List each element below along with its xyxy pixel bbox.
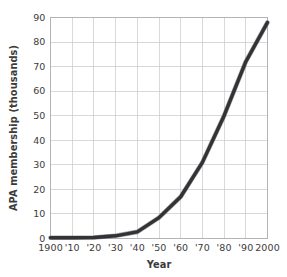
- y-tick-label: 30: [33, 159, 45, 170]
- line-chart: 0102030405060708090 1900'10'20'30'40'50'…: [0, 0, 287, 277]
- x-tick-label: '90: [238, 242, 253, 253]
- y-tick-label: 50: [33, 110, 45, 121]
- x-tick-label: 1900: [38, 242, 63, 253]
- chart-container: 0102030405060708090 1900'10'20'30'40'50'…: [0, 0, 287, 277]
- y-tick-label: 40: [33, 135, 45, 146]
- x-tick-label: '20: [86, 242, 101, 253]
- x-axis-title: Year: [146, 259, 172, 270]
- y-tick-label: 10: [33, 208, 45, 219]
- y-tick-label: 60: [33, 85, 45, 96]
- y-axis-title: APA membership (thousands): [8, 45, 19, 211]
- y-tick-label: 80: [33, 36, 45, 47]
- x-tick-label: '30: [108, 242, 123, 253]
- x-tick-label: '50: [152, 242, 167, 253]
- x-tick-label: '70: [195, 242, 210, 253]
- y-tick-label: 90: [33, 12, 45, 23]
- x-tick-label: '10: [65, 242, 80, 253]
- y-tick-label: 20: [33, 184, 45, 195]
- x-tick-label: 2000: [255, 242, 280, 253]
- x-axis-tick-labels: 1900'10'20'30'40'50'60'70'80'902000: [38, 242, 280, 253]
- y-tick-label: 70: [33, 61, 45, 72]
- x-tick-label: '80: [217, 242, 232, 253]
- y-axis-tick-labels: 0102030405060708090: [33, 12, 45, 244]
- x-tick-label: '40: [130, 242, 145, 253]
- x-gridlines: [51, 18, 268, 239]
- x-tick-label: '60: [173, 242, 188, 253]
